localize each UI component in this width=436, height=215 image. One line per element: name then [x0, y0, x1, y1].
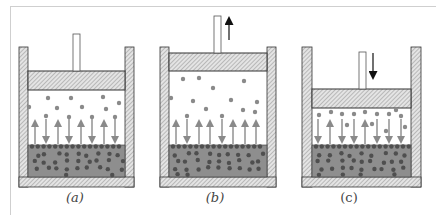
liquid-particle [217, 153, 221, 157]
liquid-particle [238, 166, 242, 170]
liquid-particle [368, 159, 372, 163]
liquid-surface-particle [65, 144, 69, 148]
liquid-surface-particle [82, 144, 86, 148]
liquid-particle [341, 172, 345, 176]
vapor-particle [90, 115, 94, 119]
liquid-particle [359, 151, 363, 155]
liquid-particle [347, 154, 351, 158]
liquid-particle [184, 168, 188, 172]
liquid-particle [227, 161, 231, 165]
liquid-particle [341, 166, 345, 170]
liquid-particle [84, 154, 88, 158]
liquid-surface-particle [182, 144, 186, 148]
liquid-particle [76, 159, 80, 163]
liquid-surface-particle [177, 144, 181, 148]
vapor-pressure-diagram: (a) (b) (c) [0, 0, 436, 215]
liquid-particle [360, 159, 364, 163]
liquid-particle [401, 165, 405, 169]
liquid-surface-particle [360, 144, 364, 148]
liquid-particle [216, 165, 220, 169]
liquid-particle [339, 151, 343, 155]
liquid-surface-particle [240, 144, 244, 148]
liquid-surface-particle [36, 144, 40, 148]
liquid-particle [42, 152, 46, 156]
liquid-particle [194, 151, 198, 155]
liquid-particle [120, 168, 124, 172]
liquid-particle [65, 152, 69, 156]
vapor-particle [352, 112, 356, 116]
vapor-particle [191, 99, 195, 103]
vapor-particle [169, 96, 173, 100]
cylinder-wall-left [19, 47, 28, 187]
vapor-particle [55, 106, 59, 110]
cylinder-panel-c [302, 47, 421, 187]
liquid-surface-particle [200, 144, 204, 148]
vapor-particle [211, 86, 215, 90]
liquid-particle [352, 158, 356, 162]
cylinder-wall-right [411, 47, 421, 187]
liquid-particle [358, 172, 362, 176]
liquid-particle [94, 158, 98, 162]
vapor-particle [370, 122, 374, 126]
cylinder-floor [302, 177, 421, 187]
cylinder-wall-left [302, 47, 312, 187]
liquid-particle [256, 159, 260, 163]
liquid-particle [349, 166, 353, 170]
panel-label-c: (c) [334, 190, 364, 205]
liquid-surface-particle [76, 144, 80, 148]
piston-rod [359, 52, 366, 89]
liquid-particle [187, 151, 191, 155]
liquid-particle [372, 167, 376, 171]
vapor-particle [253, 110, 257, 114]
liquid-particle [319, 167, 323, 171]
piston [169, 53, 267, 71]
liquid-particle [226, 152, 230, 156]
liquid-particle [394, 151, 398, 155]
liquid-particle [250, 160, 254, 164]
liquid-particle [33, 159, 37, 163]
liquid-surface-particle [235, 144, 239, 148]
vapor-particle [197, 76, 201, 80]
liquid-surface-particle [217, 144, 221, 148]
vapor-particle [345, 123, 349, 127]
liquid-particle [392, 172, 396, 176]
piston [312, 89, 411, 108]
liquid-surface-particle [378, 144, 382, 148]
vapor-particle [387, 112, 391, 116]
liquid-particle [196, 167, 200, 171]
cylinder-wall-left [160, 47, 169, 187]
liquid-surface-particle [88, 144, 92, 148]
vapor-particle [340, 112, 344, 116]
liquid-particle [65, 158, 69, 162]
vapor-particle [384, 129, 388, 133]
liquid-surface-particle [258, 144, 262, 148]
liquid-surface-particle [325, 144, 329, 148]
cylinder-floor [160, 177, 276, 187]
liquid-particle [369, 153, 373, 157]
cylinder-wall-right [267, 47, 276, 187]
liquid-particle [207, 160, 211, 164]
liquid-surface-particle [70, 144, 74, 148]
liquid-surface-particle [117, 144, 121, 148]
liquid-surface-particle [395, 144, 399, 148]
liquid-particle [121, 159, 125, 163]
liquid-particle [41, 160, 45, 164]
liquid-particle [196, 158, 200, 162]
liquid-surface-particle [389, 144, 393, 148]
liquid-surface-particle [401, 144, 405, 148]
vapor-particle [403, 125, 407, 129]
vapor-particle [255, 100, 259, 104]
liquid-surface-particle [229, 144, 233, 148]
liquid-surface-particle [223, 144, 227, 148]
liquid-particle [236, 153, 240, 157]
vapor-particle [67, 115, 71, 119]
liquid-particle [256, 167, 260, 171]
liquid-particle [77, 151, 81, 155]
panel-label-a: (a) [60, 190, 90, 205]
liquid-surface-particle [171, 144, 175, 148]
vapor-particle [80, 105, 84, 109]
piston-rod [73, 34, 80, 71]
cylinder-wall-right [125, 47, 134, 187]
liquid-particle [65, 167, 69, 171]
vapor-particle [394, 108, 398, 112]
